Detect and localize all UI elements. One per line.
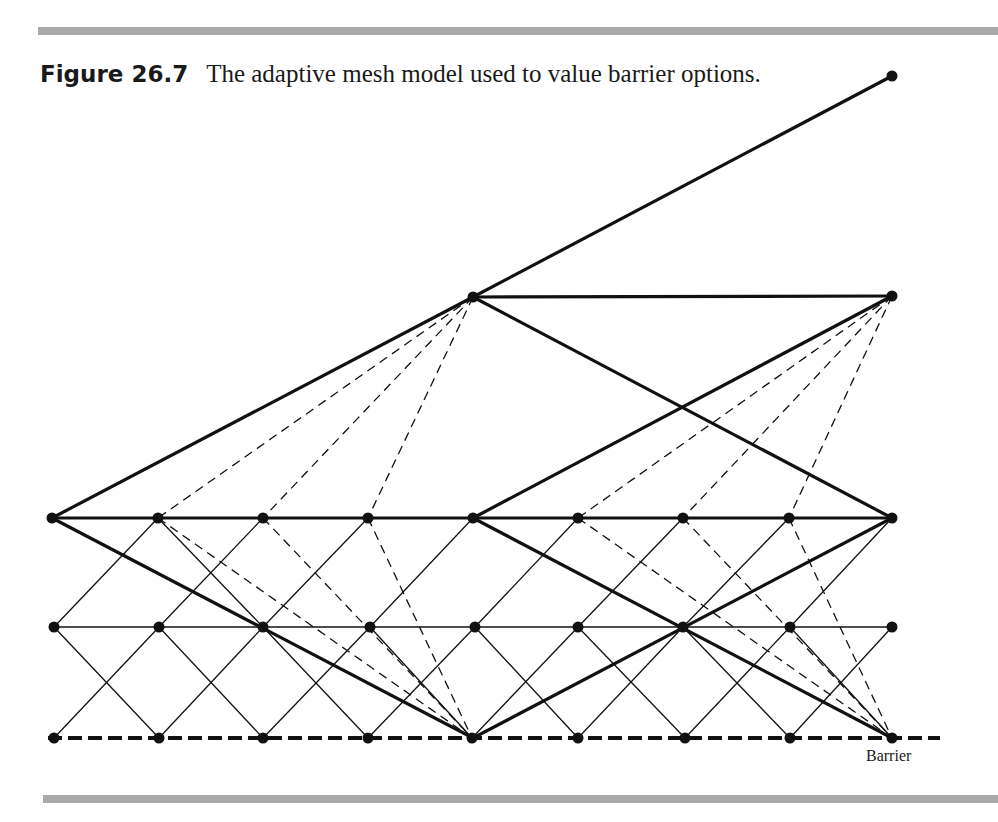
mesh-node xyxy=(258,513,269,524)
mesh-node xyxy=(49,733,60,744)
dashed-edge xyxy=(789,296,892,518)
mesh-node xyxy=(887,622,898,633)
fine-edge xyxy=(54,518,158,627)
mesh-node xyxy=(470,622,481,633)
coarse-edge xyxy=(473,296,892,297)
mesh-node xyxy=(47,513,58,524)
mesh-node xyxy=(467,733,478,744)
mesh-node xyxy=(573,733,584,744)
dashed-edge xyxy=(789,518,892,738)
dashed-edge xyxy=(578,518,892,738)
fine-edge xyxy=(790,518,892,627)
mesh-node xyxy=(680,733,691,744)
mesh-node xyxy=(573,622,584,633)
mesh-node xyxy=(887,71,898,82)
mesh-node xyxy=(887,513,898,524)
mesh-node xyxy=(365,622,376,633)
dashed-edge xyxy=(263,297,473,518)
mesh-node xyxy=(785,622,796,633)
mesh-node xyxy=(678,513,689,524)
mesh-node xyxy=(154,622,165,633)
coarse-edge xyxy=(52,297,473,518)
dashed-edge xyxy=(368,297,473,518)
mesh-node xyxy=(258,622,269,633)
barrier-label: Barrier xyxy=(866,747,911,765)
fine-edge xyxy=(370,627,472,738)
mesh-node xyxy=(363,513,374,524)
mesh-node xyxy=(887,733,898,744)
mesh-node xyxy=(678,622,689,633)
dashed-edge xyxy=(158,518,472,738)
mesh-node xyxy=(154,733,165,744)
mesh-node xyxy=(887,291,898,302)
dashed-edge xyxy=(158,297,473,518)
mesh-node xyxy=(258,733,269,744)
dashed-edge xyxy=(368,518,472,738)
mesh-node xyxy=(468,292,479,303)
mesh-node xyxy=(784,513,795,524)
mesh-node xyxy=(363,733,374,744)
mesh-node xyxy=(153,513,164,524)
mesh-node xyxy=(49,622,60,633)
bottom-rule xyxy=(43,795,998,803)
mesh-node xyxy=(573,513,584,524)
mesh-node xyxy=(468,513,479,524)
coarse-tree-lines xyxy=(52,76,892,738)
dashed-edge xyxy=(578,296,892,518)
dashed-edge xyxy=(683,296,892,518)
adaptive-mesh-diagram xyxy=(0,0,998,822)
fine-edge xyxy=(370,518,473,627)
coarse-edge xyxy=(473,76,892,297)
mesh-node xyxy=(785,733,796,744)
fine-edge xyxy=(578,518,683,627)
fine-edge xyxy=(475,518,578,627)
